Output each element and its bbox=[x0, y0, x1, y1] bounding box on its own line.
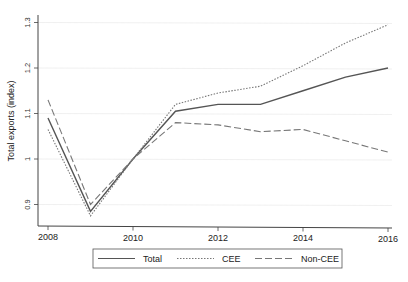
gridline bbox=[38, 114, 392, 115]
line-chart: 0.911.11.21.3 20082010201220142016 Total… bbox=[0, 0, 408, 282]
legend: Total CEE Non-CEE bbox=[93, 249, 342, 268]
y-tick-label: 1.2 bbox=[23, 63, 32, 73]
y-tick-label: 0.9 bbox=[23, 199, 32, 209]
y-ticks: 0.911.11.21.3 bbox=[23, 17, 38, 209]
x-tick-label: 2014 bbox=[293, 233, 313, 243]
x-axis bbox=[38, 226, 392, 228]
y-tick-label: 1.1 bbox=[23, 108, 32, 118]
legend-label-non-cee: Non-CEE bbox=[301, 254, 339, 264]
series-lines bbox=[48, 25, 388, 216]
gridline bbox=[38, 159, 392, 160]
y-tick-label: 1 bbox=[23, 157, 32, 161]
gridline bbox=[38, 23, 392, 24]
x-tick-label: 2012 bbox=[208, 233, 228, 243]
series-total bbox=[48, 68, 388, 211]
gridline bbox=[38, 68, 392, 69]
series-cee bbox=[48, 25, 388, 216]
legend-label-total: Total bbox=[143, 254, 162, 264]
y-axis-title: Total exports (index) bbox=[6, 80, 16, 161]
y-tick-label: 1.3 bbox=[23, 17, 32, 27]
x-tick-label: 2008 bbox=[38, 232, 58, 242]
x-ticks: 20082010201220142016 bbox=[38, 226, 398, 244]
legend-label-cee: CEE bbox=[222, 254, 241, 264]
x-tick-label: 2016 bbox=[378, 234, 398, 244]
series-non-cee bbox=[48, 100, 388, 205]
gridlines bbox=[38, 23, 392, 206]
x-tick-label: 2010 bbox=[123, 233, 143, 243]
